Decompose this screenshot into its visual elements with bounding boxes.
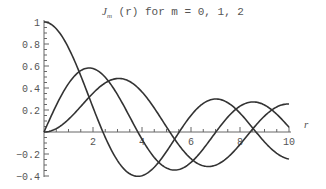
y-tick-label: 0.6 — [22, 62, 40, 73]
curve-j1r — [44, 68, 289, 170]
x-tick-label: 2 — [90, 137, 96, 148]
y-tick-label: −0.4 — [16, 172, 40, 183]
x-tick-label: 6 — [188, 137, 194, 148]
y-tick-label: 0.4 — [22, 84, 40, 95]
y-tick-label: −0.2 — [16, 150, 40, 161]
x-axis-label: r — [304, 118, 309, 130]
chart-title: Jm (r) for m = 0, 1, 2 — [102, 5, 244, 20]
y-tick-label: 1 — [34, 18, 40, 29]
curve-j2r — [44, 78, 289, 166]
bessel-chart: Jm (r) for m = 0, 1, 2 246810−0.4−0.20.2… — [0, 0, 326, 189]
x-tick-label: 10 — [283, 137, 295, 148]
curve-j0r — [44, 22, 289, 176]
y-tick-label: 0.2 — [22, 106, 40, 117]
axes — [44, 20, 291, 177]
y-tick-label: 0.8 — [22, 40, 40, 51]
curves — [44, 22, 289, 176]
